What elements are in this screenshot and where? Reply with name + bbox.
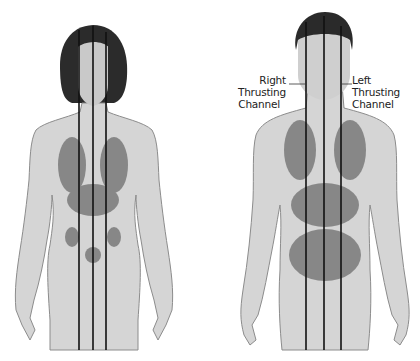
left-label-line2: Channel (352, 98, 420, 110)
right-label-line2: Channel (210, 98, 286, 110)
female-body (15, 103, 172, 350)
right-label-line1: Right Thrusting (210, 74, 286, 98)
right-thrusting-channel-label: Right Thrusting Channel (210, 74, 286, 110)
diagram-canvas (0, 0, 420, 361)
female-figure (15, 25, 172, 350)
left-label-line1: Left Thrusting (352, 74, 420, 98)
male-figure (241, 12, 409, 350)
left-thrusting-channel-label: Left Thrusting Channel (352, 74, 420, 110)
